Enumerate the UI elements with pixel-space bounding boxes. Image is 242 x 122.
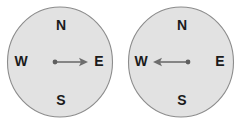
compass-right: N W E S <box>127 6 237 118</box>
cardinal-label-north: N <box>177 17 187 33</box>
compass-figure: N W E S N W E S <box>0 0 242 122</box>
cardinal-label-west: W <box>134 53 148 69</box>
cardinal-label-west: W <box>14 53 28 69</box>
needle-pivot-dot <box>186 60 191 65</box>
compass-left: N W E S <box>6 6 116 118</box>
cardinal-label-east: E <box>94 53 103 69</box>
cardinal-label-south: S <box>177 92 186 108</box>
needle-pivot-dot <box>53 60 58 65</box>
cardinal-label-east: E <box>215 53 224 69</box>
cardinal-label-north: N <box>56 17 66 33</box>
cardinal-label-south: S <box>56 92 65 108</box>
